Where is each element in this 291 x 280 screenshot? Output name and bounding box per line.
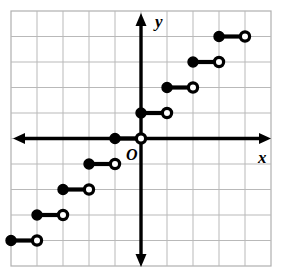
- closed-endpoint-dot: [136, 108, 146, 118]
- closed-endpoint-dot: [58, 185, 68, 195]
- open-endpoint-dot: [110, 159, 119, 168]
- origin-label: O: [126, 146, 138, 163]
- open-endpoint-dot: [240, 32, 249, 41]
- x-axis-arrow-left: [13, 133, 25, 144]
- y-axis-arrow-down: [136, 254, 147, 267]
- closed-endpoint-dot: [6, 236, 16, 246]
- closed-endpoint-dot: [110, 134, 120, 144]
- open-endpoint-dot: [58, 210, 67, 219]
- y-axis-label: y: [153, 12, 163, 31]
- y-axis-arrow-up: [136, 13, 147, 26]
- closed-endpoint-dot: [32, 210, 42, 220]
- x-axis-label: x: [257, 148, 267, 167]
- open-endpoint-dot: [84, 185, 93, 194]
- open-endpoint-dot: [32, 236, 41, 245]
- open-endpoint-dot: [188, 83, 197, 92]
- open-endpoint-dot: [214, 57, 223, 66]
- coordinate-plane: y x O: [0, 0, 291, 280]
- closed-endpoint-dot: [214, 32, 224, 42]
- open-endpoint-dot: [162, 108, 171, 117]
- step-function-graph: y x O: [0, 0, 291, 280]
- closed-endpoint-dot: [84, 159, 94, 169]
- x-axis-arrow-right: [259, 133, 271, 144]
- closed-endpoint-dot: [188, 57, 198, 67]
- closed-endpoint-dot: [162, 83, 172, 93]
- open-endpoint-dot: [136, 134, 145, 143]
